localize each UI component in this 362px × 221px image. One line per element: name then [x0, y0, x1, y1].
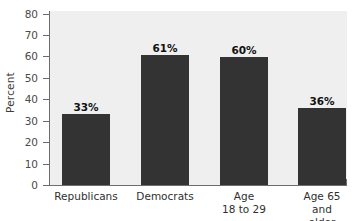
y-tick-label: 40 — [14, 94, 42, 105]
y-tick-label: 50 — [14, 73, 42, 84]
bar-value-label: 61% — [152, 42, 177, 54]
y-tick-label: 60 — [14, 51, 42, 62]
x-category-label: Republicans — [54, 190, 117, 203]
y-tick-label: 80 — [14, 9, 42, 20]
y-tick-label: 0 — [14, 180, 42, 191]
bar-republicans — [62, 114, 110, 185]
y-tick-label: 10 — [14, 159, 42, 170]
bar-age-65-and-older — [298, 108, 346, 185]
y-tick-label: 70 — [14, 30, 42, 41]
y-axis-line — [49, 11, 50, 186]
y-tick-label: 30 — [14, 116, 42, 127]
x-category-label: Democrats — [136, 190, 193, 203]
x-axis-line — [49, 185, 347, 186]
y-tick-label: 20 — [14, 137, 42, 148]
bar-democrats — [141, 55, 189, 185]
x-category-label: Age 18 to 29 — [222, 190, 266, 216]
bar-value-label: 33% — [73, 101, 98, 113]
x-category-label: Age 65 and older — [302, 190, 342, 221]
bar-value-label: 60% — [231, 44, 256, 56]
y-axis-tick-labels: 80 70 60 50 40 30 20 10 0 — [14, 0, 42, 221]
bar-age-18-to-29 — [220, 57, 268, 185]
bar-value-label: 36% — [309, 95, 334, 107]
x-axis-right-cap — [346, 179, 347, 186]
bar-chart: Percent 80 70 60 50 40 30 20 10 0 33% 61… — [0, 0, 362, 221]
